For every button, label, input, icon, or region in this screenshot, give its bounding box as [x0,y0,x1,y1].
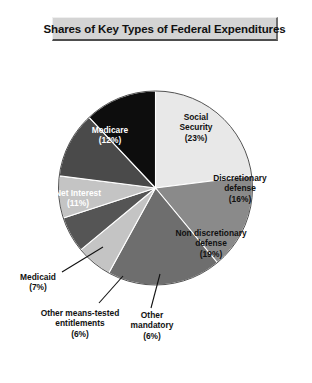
slice-percent: (7%) [9,282,67,292]
pie-chart-figure: Shares of Key Types of Federal Expenditu… [0,0,312,383]
slice-label-line2: entitlements [27,318,133,328]
slice-label-line1: Social [166,112,226,122]
slice-label-social-security: Social Security (23%) [166,112,226,143]
slice-label-other-means-tested-entitlements: Other means-tested entitlements (6%) [27,308,133,339]
slice-label-line1: Medicare [77,125,143,135]
slice-label-line2: Security [166,122,226,132]
leader-line-other-means-tested-entitlements [99,276,123,303]
slice-label-non-discretionary-defense: Non discretionary defense (19%) [157,228,265,259]
slice-label-line1: Discretionary [198,173,282,183]
slice-percent: (19%) [157,249,265,259]
slice-percent: (6%) [27,329,133,339]
slice-percent: (11%) [38,198,118,208]
slice-label-discretionary-defense: Discretionary defense (16%) [198,173,282,204]
slice-percent: (23%) [166,133,226,143]
slice-label-line2: defense [157,238,265,248]
slice-label-line2: defense [198,183,282,193]
slice-percent: (16%) [198,194,282,204]
slice-label-line1: Non discretionary [157,228,265,238]
slice-label-medicare: Medicare (12%) [77,125,143,146]
slice-label-line1: Other means-tested [27,308,133,318]
slice-percent: (12%) [77,135,143,145]
slice-label-line1: Medicaid [9,272,67,282]
slice-label-line1: Net Interest [38,188,118,198]
slice-label-net-interest: Net Interest (11%) [38,188,118,209]
slice-label-medicaid: Medicaid (7%) [9,272,67,293]
